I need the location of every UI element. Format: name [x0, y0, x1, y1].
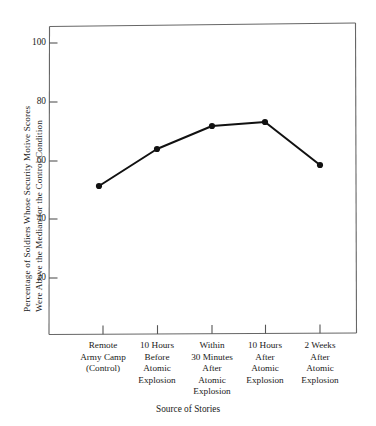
- y-axis-tick-labels: 100 80 60 40 20: [14, 0, 46, 426]
- x-tick-label-2-weeks-after: 2 Weeks After Atomic Explosion: [283, 340, 357, 386]
- x-tick-line: 2 Weeks: [283, 340, 357, 352]
- x-tick-line: Explosion: [175, 386, 249, 398]
- y-tick-label: 80: [20, 97, 46, 106]
- y-tick-label: 100: [20, 38, 46, 47]
- x-axis-title: Source of Stories: [0, 404, 376, 414]
- y-tick-label: 40: [20, 214, 46, 223]
- data-point: [209, 123, 215, 129]
- y-tick-label: 20: [20, 273, 46, 282]
- x-tick-line: Atomic: [283, 363, 357, 375]
- y-tick-label: 60: [20, 156, 46, 165]
- data-point: [317, 162, 323, 168]
- x-tick-line: Explosion: [283, 375, 357, 387]
- x-tick-line: After: [283, 352, 357, 364]
- data-point: [262, 119, 268, 125]
- data-point: [154, 146, 160, 152]
- series-line: [99, 122, 320, 186]
- data-point: [96, 183, 102, 189]
- plot-frame: [49, 23, 357, 335]
- figure-container: Percentage of Soldiers Whose Security Mo…: [0, 0, 376, 426]
- y-axis-ticks: [49, 43, 58, 278]
- series-markers: [96, 119, 323, 189]
